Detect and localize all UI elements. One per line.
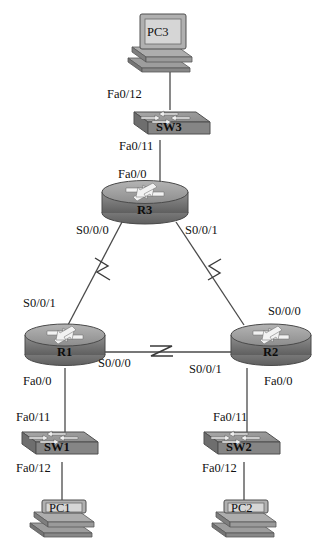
device-label-sw2: SW2 <box>226 440 252 455</box>
device-label-pc2: PC2 <box>231 501 253 516</box>
iface-label-r1-r2: S0/0/0 <box>98 357 131 370</box>
iface-label-r3-r1: S0/0/0 <box>76 224 109 237</box>
iface-label-r2-r1: S0/0/1 <box>189 363 222 376</box>
iface-label-sw2-pc2: Fa0/12 <box>202 462 237 475</box>
link-r3-r1 <box>68 222 122 325</box>
iface-label-r3-sw3: Fa0/0 <box>118 168 146 181</box>
device-label-r1: R1 <box>57 345 72 360</box>
device-label-sw1: SW1 <box>44 440 70 455</box>
iface-label-r1-r3: S0/0/1 <box>23 297 56 310</box>
iface-label-sw3-pc3: Fa0/12 <box>107 88 142 101</box>
iface-label-sw1-pc1: Fa0/12 <box>16 462 51 475</box>
serial-bolt-r1-r2 <box>150 346 173 356</box>
device-label-pc1: PC1 <box>49 501 71 516</box>
device-label-sw3: SW3 <box>156 120 182 135</box>
iface-label-r2-r3: S0/0/0 <box>268 305 301 318</box>
device-label-r3: R3 <box>137 203 152 218</box>
iface-label-r1-sw1: Fa0/0 <box>23 375 51 388</box>
iface-label-r3-r2: S0/0/1 <box>185 224 218 237</box>
device-label-pc3: PC3 <box>147 25 169 40</box>
device-label-r2: R2 <box>263 345 278 360</box>
link-r3-r2 <box>176 222 244 325</box>
network-diagram-canvas: PC3 SW3 R3 R1 R2 SW1 SW2 PC1 PC2 Fa0/12 … <box>0 0 316 548</box>
device-pc3[interactable] <box>128 14 192 72</box>
iface-label-r2-sw2: Fa0/0 <box>264 375 292 388</box>
iface-label-sw2-r2: Fa0/11 <box>213 411 247 424</box>
iface-label-sw3-r3: Fa0/11 <box>119 140 153 153</box>
iface-label-sw1-r1: Fa0/11 <box>16 411 50 424</box>
serial-bolt-r3-r2 <box>208 259 221 280</box>
